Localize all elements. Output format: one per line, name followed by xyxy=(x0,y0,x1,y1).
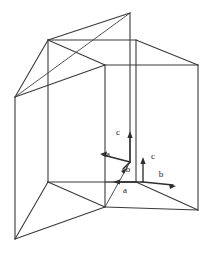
edge-upperrightback-farright xyxy=(136,40,198,65)
axis-label-b-right: b xyxy=(159,169,164,179)
axis-label-a-bottom: a xyxy=(123,185,127,195)
vector-b-outer xyxy=(143,182,173,185)
edge-bottomleft-midcenter xyxy=(15,207,105,239)
edge-apex-upperleft xyxy=(48,13,130,40)
arrowhead-c-outer xyxy=(140,157,145,164)
edge-upperleft-upperinner xyxy=(48,40,105,65)
edge-rightinner-bottomright xyxy=(136,182,198,210)
axis-label-b-inner: b xyxy=(126,164,131,174)
figure-container: c a b c b a xyxy=(0,0,212,254)
edge-farleft-upperinner xyxy=(15,65,105,97)
axis-label-a-left: a xyxy=(106,149,110,159)
axis-label-c-upper: c xyxy=(116,127,120,137)
axis-label-c-right: c xyxy=(151,151,155,161)
edge-upperleft-farleft xyxy=(15,40,48,97)
edge-midcenter-bottomright xyxy=(105,207,198,210)
upper-shell-edges xyxy=(15,13,198,162)
axis-labels: c a b c b a xyxy=(106,127,164,195)
lower-shell-edges xyxy=(15,162,198,239)
arrowhead-c-inner xyxy=(127,131,132,138)
wireframe-prism-diagram: c a b c b a xyxy=(0,0,212,254)
edge-midleft-midcenter xyxy=(48,182,105,207)
edge-apex-farleft xyxy=(15,13,130,97)
arrowhead-a-outer xyxy=(113,180,120,185)
edge-midleft-bottomleft xyxy=(15,182,48,239)
